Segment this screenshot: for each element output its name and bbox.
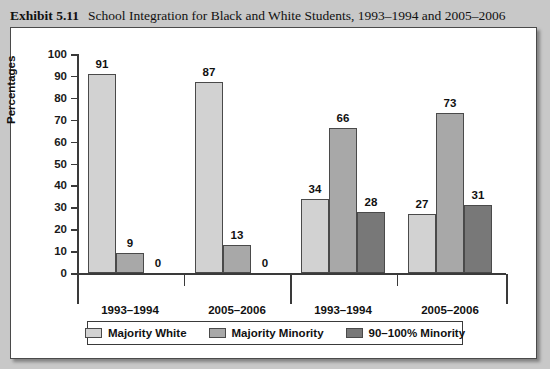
y-axis-tick: [71, 185, 77, 187]
y-axis-labels: 0102030405060708090100: [33, 28, 67, 358]
legend-swatch: [346, 328, 363, 338]
y-axis-tick-label: 10: [37, 245, 67, 257]
bar: [408, 214, 436, 273]
chart-panel: Percentages 0102030405060708090100 91908…: [10, 27, 537, 359]
y-axis-tick-label: 0: [37, 267, 67, 279]
bar-value-label: 66: [337, 112, 350, 124]
x-axis-line: [77, 273, 506, 275]
x-axis-category-label: 1993–1994: [101, 304, 159, 316]
legend-label: Majority White: [108, 327, 187, 339]
bar-value-label: 73: [444, 97, 457, 109]
legend-item: Majority Minority: [209, 327, 324, 339]
y-axis-tick-label: 50: [37, 158, 67, 170]
bar: [357, 212, 385, 273]
bar-value-label: 0: [155, 257, 161, 269]
y-axis-title: Percentages: [5, 56, 17, 124]
y-axis-tick: [71, 251, 77, 253]
exhibit-title: School Integration for Black and White S…: [88, 8, 505, 24]
bar-value-label: 9: [127, 237, 133, 249]
category-separator: [184, 274, 186, 286]
legend-label: Majority Minority: [232, 327, 324, 339]
y-axis-tick-label: 30: [37, 201, 67, 213]
exhibit-caption: Exhibit 5.11 School Integration for Blac…: [10, 6, 540, 26]
bar-value-label: 28: [365, 196, 378, 208]
x-axis-category-label: 2005–2006: [208, 304, 266, 316]
y-axis-tick-label: 60: [37, 136, 67, 148]
y-axis-tick-label: 20: [37, 223, 67, 235]
bar: [464, 205, 492, 273]
y-axis-tick-label: 80: [37, 92, 67, 104]
y-axis-tick: [71, 207, 77, 209]
legend-swatch: [85, 328, 102, 338]
bar: [223, 245, 251, 273]
y-axis-tick: [71, 142, 77, 144]
bar-value-label: 27: [416, 198, 429, 210]
category-separator: [506, 274, 508, 304]
bar: [436, 113, 464, 273]
y-axis-tick: [71, 120, 77, 122]
y-axis-tick-label: 70: [37, 114, 67, 126]
x-axis-category-label: 1993–1994: [314, 304, 372, 316]
y-axis-tick: [71, 164, 77, 166]
y-axis-tick: [71, 76, 77, 78]
bar-value-label: 34: [309, 183, 322, 195]
category-separator: [397, 274, 399, 286]
bar-value-label: 0: [262, 257, 268, 269]
bar-value-label: 87: [203, 66, 216, 78]
legend-label: 90–100% Minority: [369, 327, 466, 339]
bar-value-label: 91: [96, 58, 109, 70]
bar: [195, 82, 223, 273]
bar: [116, 253, 144, 273]
bar-value-label: 31: [472, 189, 485, 201]
plot-area: 9190871303466282773311993–19942005–20061…: [77, 54, 505, 273]
bar: [88, 74, 116, 273]
legend-item: 90–100% Minority: [346, 327, 466, 339]
y-axis-tick: [71, 229, 77, 231]
y-axis-tick-label: 40: [37, 179, 67, 191]
bar: [329, 128, 357, 273]
y-axis-tick: [71, 98, 77, 100]
category-separator: [77, 274, 79, 304]
bar-value-label: 13: [231, 229, 244, 241]
chart-legend: Majority WhiteMajority Minority90–100% M…: [87, 321, 463, 345]
legend-swatch: [209, 328, 226, 338]
bar: [301, 199, 329, 273]
y-axis-tick-label: 100: [37, 48, 67, 60]
legend-item: Majority White: [85, 327, 187, 339]
exhibit-number: Exhibit 5.11: [10, 8, 79, 24]
x-axis-category-label: 2005–2006: [421, 304, 479, 316]
y-axis-tick-label: 90: [37, 70, 67, 82]
category-separator: [290, 274, 292, 304]
y-axis-tick: [71, 54, 77, 56]
